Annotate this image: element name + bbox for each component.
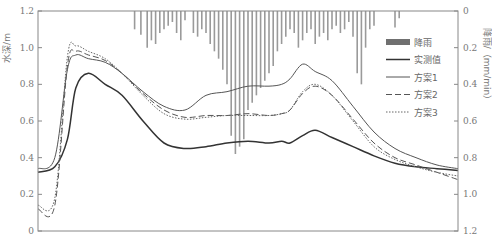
left-axis-ticks: 00.20.40.60.81.01.2 <box>20 6 42 236</box>
y-tick-label: 1.2 <box>20 6 34 16</box>
legend-swatch-rain <box>386 39 410 45</box>
y-tick-label: 0.2 <box>20 189 34 199</box>
y2-tick-label: 0.2 <box>463 43 477 53</box>
y2-tick-label: 0 <box>463 6 469 16</box>
y-axis-label: 水深/m <box>1 33 12 63</box>
y2-axis-label: 降雨/（mm/min） <box>482 28 492 105</box>
legend-label-s2: 方案2 <box>414 89 438 100</box>
legend-label-measured: 实测值 <box>414 54 441 65</box>
chart: 00.20.40.60.81.01.2 00.20.40.60.81.01.2 … <box>0 0 492 241</box>
legend-label-s3: 方案3 <box>414 107 438 118</box>
legend-label-s1: 方案1 <box>414 72 438 83</box>
y2-tick-label: 0.4 <box>463 79 478 89</box>
y-tick-label: 0.4 <box>20 153 35 163</box>
y-tick-label: 0.6 <box>20 116 35 126</box>
legend-label-rain: 降雨 <box>414 37 432 48</box>
y2-tick-label: 1.2 <box>463 226 477 236</box>
y-tick-label: 1.0 <box>20 43 35 53</box>
rainfall-bars <box>135 11 400 154</box>
y2-tick-label: 0.8 <box>463 153 478 163</box>
y2-tick-label: 1.0 <box>463 189 478 199</box>
y2-tick-label: 0.6 <box>463 116 478 126</box>
legend: 降雨实测值方案1方案2方案3 <box>386 37 441 118</box>
y-tick-label: 0 <box>28 226 34 236</box>
y-tick-label: 0.8 <box>20 79 35 89</box>
